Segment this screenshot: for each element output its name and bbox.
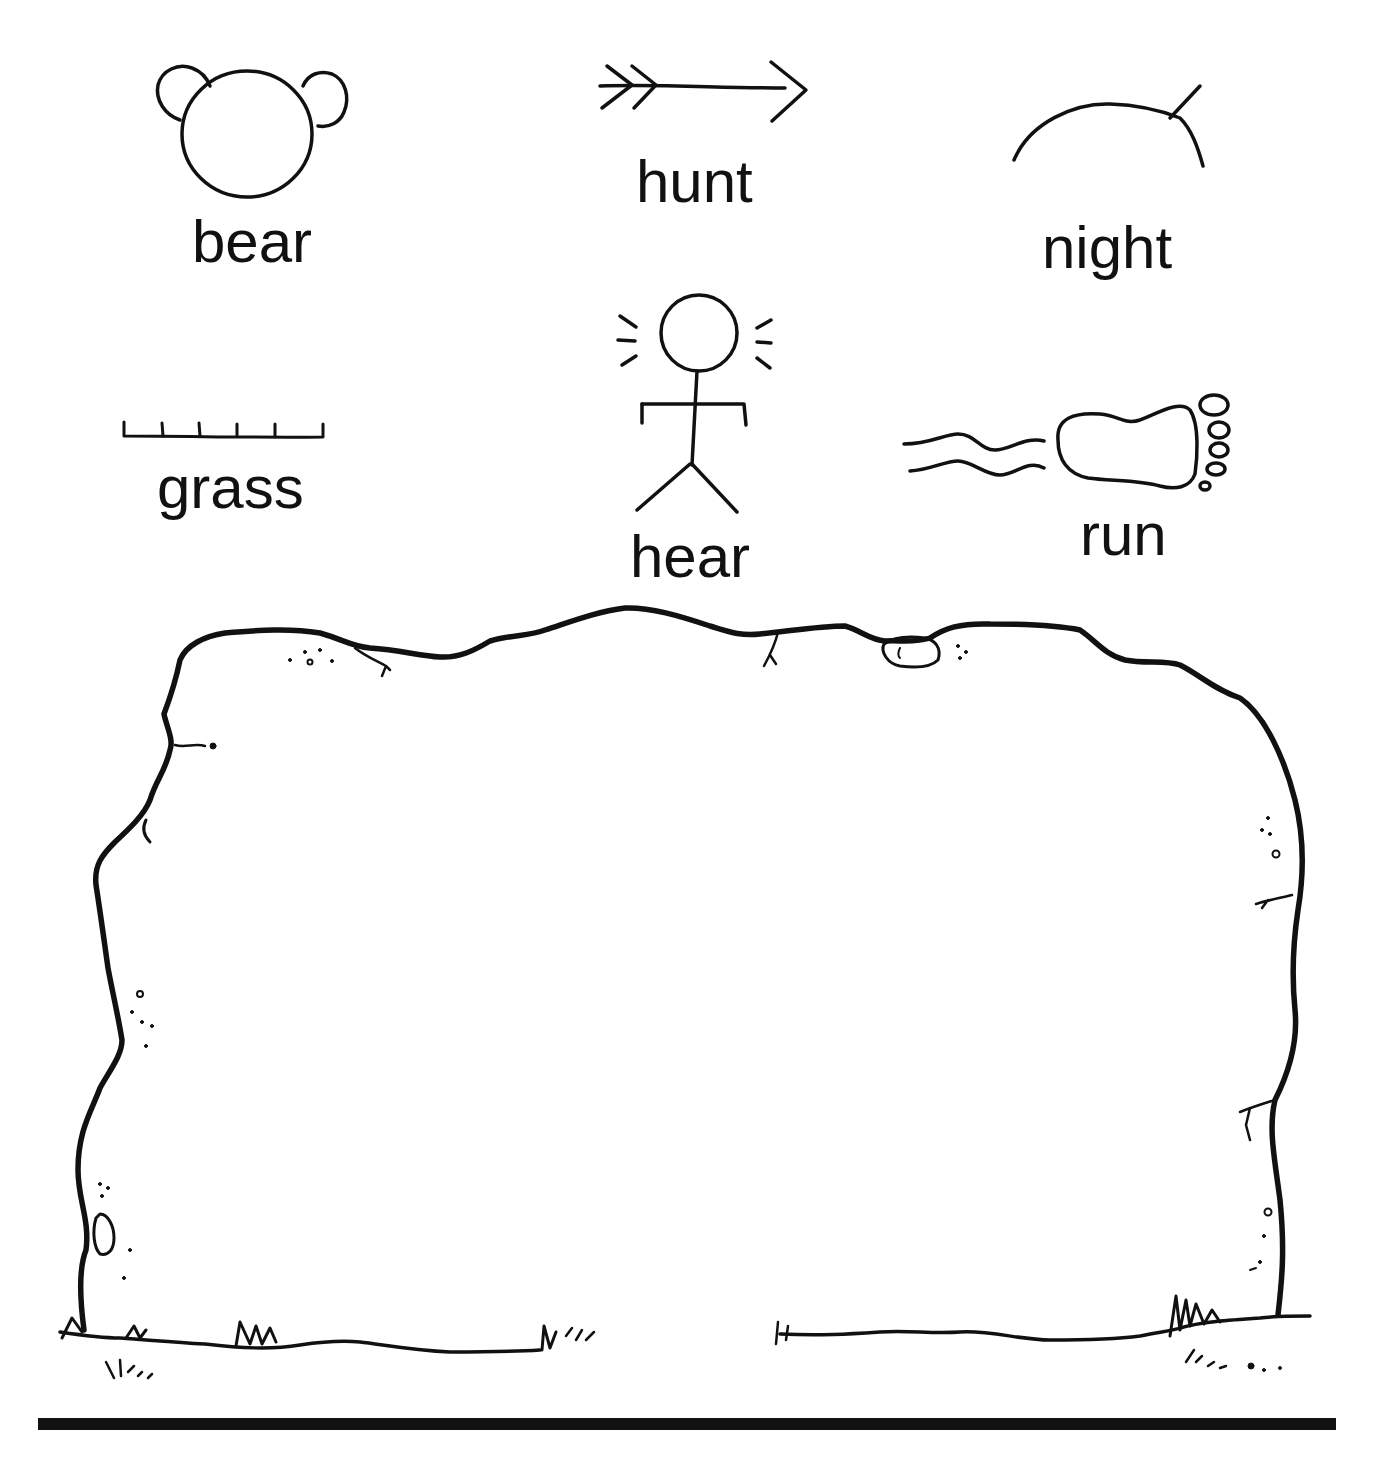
- label-hear: hear: [630, 527, 750, 587]
- bottom-divider: [38, 1418, 1336, 1430]
- footprint-speed-icon: [904, 395, 1229, 490]
- rock-drawing-area: [60, 608, 1310, 1378]
- moon-arc-icon: [1014, 86, 1203, 166]
- label-run: run: [1080, 505, 1167, 565]
- label-grass: grass: [157, 458, 304, 518]
- arrow-icon: [600, 62, 806, 121]
- grass-line-icon: [124, 422, 323, 437]
- label-night: night: [1042, 218, 1172, 278]
- label-bear: bear: [192, 212, 312, 272]
- label-hunt: hunt: [636, 152, 753, 212]
- stick-figure-listening-icon: [618, 295, 771, 512]
- bear-face-icon: [157, 66, 346, 197]
